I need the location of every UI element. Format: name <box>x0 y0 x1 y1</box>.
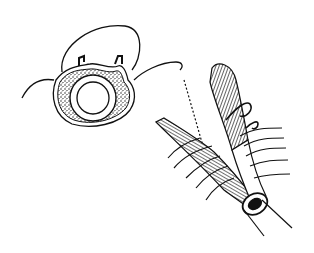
left-cross-section-figure <box>22 26 182 127</box>
upper-hatched-flap <box>210 64 248 150</box>
suture-thread <box>246 148 286 156</box>
suture-thread <box>244 138 284 146</box>
lumen-inner-ring <box>77 82 109 114</box>
left-thread-line <box>22 80 54 98</box>
tube-tail-right <box>262 200 292 228</box>
right-suture-figure <box>156 64 292 236</box>
suture-thread <box>254 174 290 178</box>
right-thread-line <box>134 62 182 80</box>
curved-needle-icon <box>246 122 258 129</box>
illustration-canvas: const data = JSON.parse(document.getElem… <box>0 0 314 253</box>
suture-thread <box>250 160 288 166</box>
suture-hook-right-icon <box>115 56 122 64</box>
